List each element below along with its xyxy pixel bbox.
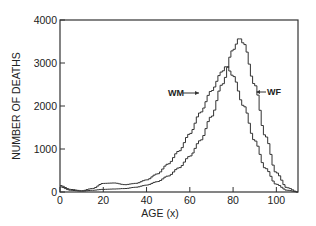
y-tick-label: 1000 (34, 143, 58, 155)
series-group (60, 39, 298, 192)
x-tick-label: 0 (57, 194, 63, 206)
x-tick-label: 40 (141, 194, 153, 206)
x-tick-label: 60 (184, 194, 196, 206)
x-tick-label: 20 (97, 194, 109, 206)
series-label-wf: WF (267, 87, 281, 97)
x-axis-title: AGE (x) (141, 207, 178, 219)
mortality-chart: 020406080100 01000200030004000 WMWF AGE … (0, 0, 316, 226)
y-tick-label: 3000 (34, 57, 58, 69)
y-axis-title: NUMBER OF DEATHS (10, 52, 22, 160)
arrowhead-icon (195, 91, 199, 95)
y-tick-label: 2000 (34, 100, 58, 112)
plot-frame (60, 20, 298, 192)
series-line-wm (60, 67, 298, 192)
series-line-wf (60, 39, 298, 192)
y-tick-label: 4000 (34, 14, 58, 26)
series-labels: WMWF (168, 87, 281, 98)
x-tick-label: 100 (268, 194, 286, 206)
series-label-wm: WM (168, 88, 184, 98)
x-tick-label: 80 (227, 194, 239, 206)
y-tick-label: 0 (51, 186, 57, 198)
